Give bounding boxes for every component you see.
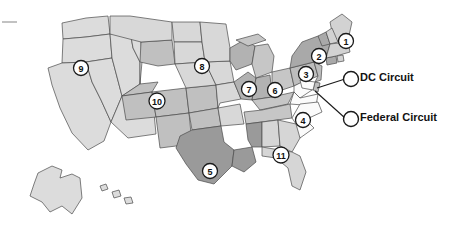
state-mississippi: [246, 122, 262, 147]
state-wyoming: [140, 40, 175, 66]
circuit-badge-label: 11: [276, 151, 286, 161]
federal-circuit-label: Federal Circuit: [360, 112, 437, 123]
legend-markers: [344, 72, 359, 127]
state-arkansas: [218, 104, 244, 126]
state-hawaii-1: [100, 184, 108, 191]
state-michigan-lower: [252, 44, 274, 78]
circuit-badge-label: 2: [316, 52, 321, 62]
state-alabama: [262, 120, 280, 147]
circuit-badge-9: 9: [74, 61, 89, 76]
circuit-badge-5: 5: [203, 164, 218, 179]
circuit-badge-4: 4: [296, 113, 311, 128]
circuit-badge-6: 6: [268, 83, 283, 98]
circuit-badge-3: 3: [299, 67, 314, 82]
dc-leader-line: [317, 79, 345, 88]
circuit-badge-11: 11: [273, 147, 289, 163]
circuit-badge-label: 8: [199, 62, 204, 72]
state-hawaii-2: [112, 190, 121, 198]
state-minnesota: [200, 22, 230, 62]
circuit-badge-label: 4: [300, 116, 305, 126]
dc-circuit-label: DC Circuit: [360, 72, 414, 83]
circuit-badge-label: 5: [207, 167, 212, 177]
circuit-badge-label: 1: [343, 37, 348, 47]
state-hawaii-3: [124, 197, 133, 204]
circuit-badge-7: 7: [242, 82, 257, 97]
state-north-dakota: [172, 22, 202, 42]
circuit-badge-label: 10: [152, 97, 162, 107]
circuit-badge-label: 7: [246, 85, 251, 95]
circuit-badge-1: 1: [339, 34, 354, 49]
circuit-badge-label: 9: [78, 64, 83, 74]
state-rhode-island: [337, 55, 344, 62]
state-louisiana: [232, 147, 256, 172]
federal-leader-line: [315, 91, 345, 118]
circuit-badge-label: 3: [303, 70, 308, 80]
circuit-badge-label: 6: [272, 86, 277, 96]
state-oregon: [62, 34, 112, 63]
state-alaska: [30, 166, 82, 214]
circuit-badge-8: 8: [195, 59, 210, 74]
federal-circuit-marker: [344, 112, 359, 127]
circuit-badge-10: 10: [149, 93, 165, 109]
circuit-badge-2: 2: [312, 49, 327, 64]
dc-circuit-marker: [344, 72, 359, 87]
